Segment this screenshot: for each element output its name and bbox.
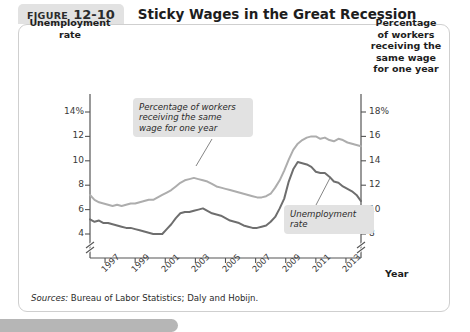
left-tick-label: 10 [38, 155, 84, 165]
sources-label: Sources: [31, 293, 68, 303]
left-tick-label: 8 [38, 179, 84, 189]
x-axis-title: Year [385, 268, 435, 280]
right-tick-label: 8 [369, 228, 409, 238]
right-axis-title: Percentageof workersreceiving thesame wa… [360, 17, 452, 75]
left-tick-label: 6 [38, 204, 84, 214]
annotation-unemployment-series: Unemployment rate [284, 205, 374, 234]
right-tick-label: 14 [369, 155, 409, 165]
left-tick-label: 12 [38, 130, 84, 140]
bottom-bar [0, 319, 178, 332]
annotation-wage-series: Percentage of workers receiving the same… [133, 98, 253, 137]
left-axis-title: Unemploymentrate [22, 17, 118, 40]
right-tick-label: 16 [369, 130, 409, 140]
sources-text: Bureau of Labor Statistics; Daly and Hob… [68, 293, 258, 303]
sources-line: Sources: Bureau of Labor Statistics; Dal… [31, 293, 258, 303]
left-tick-label: 14% [38, 106, 84, 116]
left-tick-label: 4 [38, 228, 84, 238]
right-tick-label: 12 [369, 179, 409, 189]
right-tick-label: 18% [369, 106, 409, 116]
right-tick-label: 10 [369, 204, 409, 214]
